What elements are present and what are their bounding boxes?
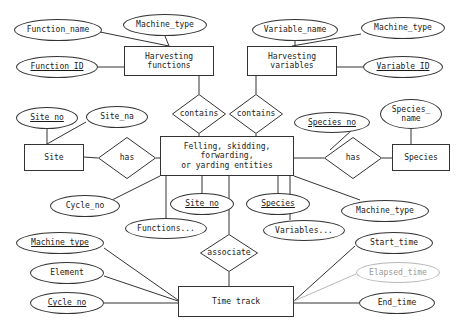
relationship-has_species[interactable]: has [324,137,382,179]
entity-label-site: Site [43,153,64,163]
attribute-label-species_name: Species_ name [391,105,432,124]
entity-time_track[interactable]: Time track [178,286,294,317]
attribute-machine_type_fn[interactable]: Machine_type [123,14,207,36]
entity-label-species: Species [403,153,439,163]
attribute-function_name[interactable]: Function_name [14,19,102,41]
relationship-label-has_species: has [345,153,361,163]
attribute-label-variables_list: Variables... [274,226,334,236]
attribute-label-variable_name: Variable_name [263,25,328,35]
edge-elapsed_time-to-time_track [294,274,356,301]
entity-site[interactable]: Site [24,144,84,171]
entity-harvesting_functions[interactable]: Harvesting functions [124,46,214,76]
edge-site-to-has_site [84,157,98,158]
er-diagram-canvas: Harvesting functionsHarvesting variables… [0,0,463,336]
attribute-site_no_mid[interactable]: Site_no [170,193,234,215]
attribute-label-variable_id: Variable_ID [376,62,431,72]
attribute-label-function_id: Function_ID [30,62,85,72]
attribute-end_time[interactable]: End_time [359,292,435,314]
attribute-label-elapsed_time: Elapsed_time [368,268,428,278]
attribute-label-species_no: Species_no [307,118,357,128]
attribute-elapsed_time[interactable]: Elapsed_time [356,262,440,283]
attribute-function_id[interactable]: Function_ID [16,56,98,78]
entity-central_entities[interactable]: Felling, skidding, forwarding, or yardin… [160,136,294,176]
attribute-species_mid[interactable]: Species [246,193,310,215]
attribute-species_name[interactable]: Species_ name [380,99,442,129]
attribute-machine_type_mid[interactable]: Machine_type [341,200,429,222]
relationship-label-has_site: has [119,153,135,163]
attribute-label-machine_type_mid: Machine_type [355,206,415,216]
attribute-element[interactable]: Element [30,262,104,284]
attribute-variables_list[interactable]: Variables... [263,220,345,241]
attribute-cycle_no_tt[interactable]: Cycle_no [30,292,104,314]
attribute-variable_id[interactable]: Variable_ID [363,56,443,78]
attribute-label-functions_list: Functions... [136,224,196,234]
entity-species[interactable]: Species [392,144,450,171]
attribute-cycle_no_mid[interactable]: Cycle_no [50,195,120,217]
attribute-label-cycle_no_mid: Cycle_no [65,201,106,211]
relationship-has_site[interactable]: has [98,137,156,179]
entity-label-central_entities: Felling, skidding, forwarding, or yardin… [180,142,274,171]
attribute-machine_type_var[interactable]: Machine_type [361,17,445,39]
edge-machine_type_fn-to-harvesting_functions [165,36,169,46]
relationship-label-associate: associate [206,248,251,258]
edge-central_entities-to-cycle_no_mid [110,176,160,201]
attribute-label-element: Element [49,268,85,278]
attribute-functions_list[interactable]: Functions... [125,218,207,239]
attribute-start_time[interactable]: Start_time [355,232,433,254]
entity-label-time_track: Time track [211,297,261,307]
attribute-label-start_time: Start_time [369,238,419,248]
entity-harvesting_variables[interactable]: Harvesting variables [247,46,337,76]
attribute-label-site_no_mid: Site_no [184,199,220,209]
attribute-site_na[interactable]: Site_na [86,106,148,128]
attribute-species_no[interactable]: Species_no [294,112,370,133]
attribute-site_no_top[interactable]: Site_no [16,107,78,129]
attribute-label-end_time: End_time [377,298,418,308]
attribute-label-cycle_no_tt: Cycle_no [47,298,88,308]
attribute-label-site_no_top: Site_no [29,113,65,123]
attribute-label-species_mid: Species [260,199,296,209]
attribute-label-machine_type_tt: Machine_type [30,238,90,248]
attribute-label-site_na: Site_na [99,112,135,122]
entity-label-harvesting_variables: Harvesting variables [267,52,317,71]
edge-start_time-to-time_track [294,246,355,301]
relationship-label-contains_functions: contains [179,109,220,119]
attribute-machine_type_tt[interactable]: Machine_type [16,232,104,254]
relationship-label-contains_variables: contains [236,109,277,119]
edge-machine_type_tt-to-time_track [104,248,178,300]
attribute-label-machine_type_fn: Machine_type [135,20,195,30]
relationship-associate[interactable]: associate [200,234,258,272]
entity-label-harvesting_functions: Harvesting functions [144,52,194,71]
attribute-label-function_name: Function_name [26,25,91,35]
relationship-contains_variables[interactable]: contains [229,94,283,134]
edge-central_entities-to-machine_type_mid [294,176,360,200]
edge-element-to-time_track [104,276,178,301]
attribute-label-machine_type_var: Machine_type [373,23,433,33]
attribute-variable_name[interactable]: Variable_name [252,19,338,41]
relationship-contains_functions[interactable]: contains [172,94,226,134]
